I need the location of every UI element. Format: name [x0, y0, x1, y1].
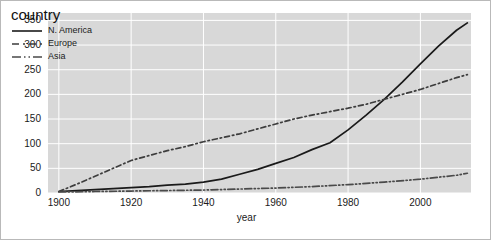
y-tick-label: 0 — [1, 188, 41, 198]
x-axis-label: year — [1, 212, 491, 223]
legend-item-asia: Asia — [11, 50, 92, 63]
y-tick-label: 250 — [1, 65, 41, 75]
chart-legend: country N. America Europe Asia — [11, 6, 92, 63]
legend-label-n-america: N. America — [43, 25, 92, 36]
y-tick-label: 150 — [1, 114, 41, 124]
x-tick-label: 1940 — [181, 197, 225, 208]
legend-item-n-america: N. America — [11, 24, 92, 37]
x-tick-label: 1900 — [37, 197, 81, 208]
x-tick-label: 1980 — [326, 197, 370, 208]
legend-title: country — [11, 6, 92, 23]
y-tick-label: 50 — [1, 163, 41, 173]
dashdot-line-key — [11, 51, 43, 63]
x-tick-label: 1920 — [109, 197, 153, 208]
x-tick-label: 1960 — [254, 197, 298, 208]
dashed-line-key — [11, 38, 43, 50]
series-line-n-america — [59, 23, 468, 192]
legend-item-europe: Europe — [11, 37, 92, 50]
series-line-europe — [59, 75, 468, 192]
y-tick-label: 100 — [1, 139, 41, 149]
legend-label-europe: Europe — [43, 38, 77, 49]
plot-panel — [48, 13, 471, 193]
solid-line-key — [11, 25, 43, 37]
chart-figure: 050100150200250300350 190019201940196019… — [0, 0, 491, 240]
legend-label-asia: Asia — [43, 51, 66, 62]
x-tick-label: 2000 — [398, 197, 442, 208]
series-lines — [48, 13, 471, 193]
series-line-asia — [59, 173, 468, 192]
y-tick-label: 200 — [1, 89, 41, 99]
